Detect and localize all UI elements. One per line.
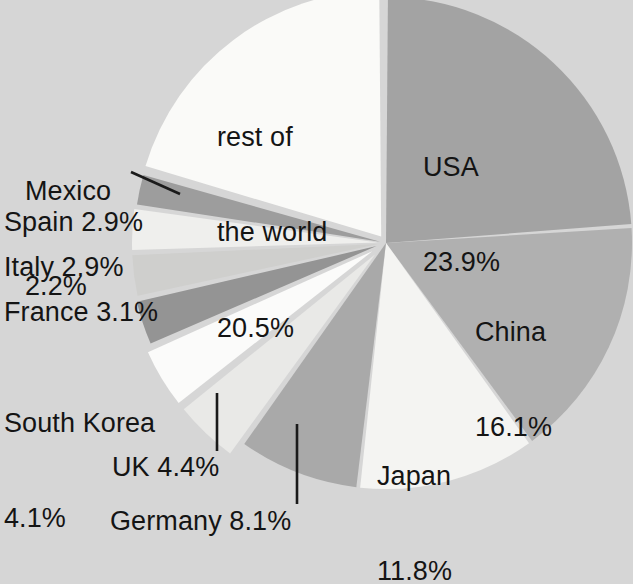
slice-label-rest-of-world-value: 20.5% bbox=[217, 313, 327, 345]
slice-label-italy: Italy 2.9% bbox=[4, 252, 124, 284]
slice-label-rest-of-world-line2: the world bbox=[217, 217, 327, 249]
slice-label-china-name: China bbox=[475, 317, 552, 349]
slice-label-rest-of-world: rest of the world 20.5% bbox=[217, 58, 327, 408]
slice-label-germany: Germany 8.1% bbox=[110, 506, 291, 538]
slice-label-usa-name: USA bbox=[423, 152, 500, 184]
slice-label-south-korea-line1: South Korea bbox=[4, 408, 155, 440]
slice-label-france: France 3.1% bbox=[4, 297, 158, 329]
slice-label-china: China 16.1% bbox=[475, 253, 552, 508]
slice-label-rest-of-world-line1: rest of bbox=[217, 122, 327, 154]
slice-label-mexico-name: Mexico bbox=[25, 176, 111, 208]
slice-label-japan-value: 11.8% bbox=[377, 556, 452, 584]
slice-label-spain: Spain 2.9% bbox=[4, 207, 143, 239]
slice-label-uk: UK 4.4% bbox=[112, 452, 219, 484]
slice-label-japan-name: Japan bbox=[377, 461, 452, 493]
slice-label-china-value: 16.1% bbox=[475, 412, 552, 444]
slice-label-japan: Japan 11.8% bbox=[377, 397, 452, 584]
